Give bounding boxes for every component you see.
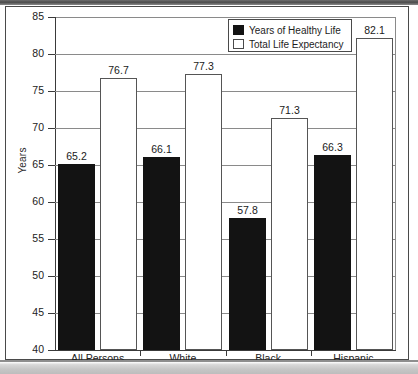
y-axis-tick xyxy=(48,239,55,240)
y-axis-tick xyxy=(48,128,55,129)
bar-total-life-expectancy xyxy=(356,38,393,350)
y-axis-tick-label: 65 xyxy=(0,159,44,170)
legend-swatch-black-square-icon xyxy=(233,25,244,35)
y-axis-tick-label: 50 xyxy=(0,270,44,281)
y-axis-tick xyxy=(48,350,55,351)
legend-swatch-white-square-icon xyxy=(233,39,244,49)
gridline xyxy=(55,54,396,55)
y-axis-tick-label: 85 xyxy=(0,11,44,22)
bar-value-label: 77.3 xyxy=(180,60,228,72)
chart-legend: Years of Healthy Life Total Life Expecta… xyxy=(228,19,352,52)
bar-healthy-life xyxy=(314,155,351,350)
bar-value-label: 66.3 xyxy=(309,141,357,153)
y-axis-tick xyxy=(48,313,55,314)
legend-item-total: Total Life Expectancy xyxy=(233,37,347,51)
y-axis-tick-label: 75 xyxy=(0,85,44,96)
bar-value-label: 65.2 xyxy=(53,150,101,162)
legend-label-healthy: Years of Healthy Life xyxy=(249,25,341,36)
y-axis-tick xyxy=(48,17,55,18)
plot-border-right xyxy=(395,17,396,351)
plot-border-left xyxy=(55,17,56,351)
bar-value-label: 76.7 xyxy=(95,64,143,76)
y-axis-tick-label: 80 xyxy=(0,48,44,59)
bar-total-life-expectancy xyxy=(185,74,222,350)
bar-value-label: 82.1 xyxy=(351,24,399,36)
y-axis-tick-label: 45 xyxy=(0,307,44,318)
y-axis-tick-label: 40 xyxy=(0,344,44,355)
plot-border-top xyxy=(55,17,396,18)
bar-healthy-life xyxy=(143,157,180,350)
y-axis-tick-label: 55 xyxy=(0,233,44,244)
scan-artifact-bottom-band xyxy=(0,362,418,374)
bar-value-label: 66.1 xyxy=(138,143,186,155)
bar-total-life-expectancy xyxy=(271,118,308,350)
bar-healthy-life xyxy=(229,218,266,350)
y-axis-tick xyxy=(48,165,55,166)
legend-label-total: Total Life Expectancy xyxy=(249,39,344,50)
y-axis-tick xyxy=(48,202,55,203)
scan-artifact-top-band xyxy=(0,0,418,5)
y-axis-tick xyxy=(48,54,55,55)
bar-healthy-life xyxy=(58,164,95,350)
bar-value-label: 71.3 xyxy=(266,104,314,116)
bar-value-label: 57.8 xyxy=(224,204,272,216)
y-axis-tick xyxy=(48,276,55,277)
bar-total-life-expectancy xyxy=(100,78,137,350)
y-axis-tick-label: 70 xyxy=(0,122,44,133)
legend-item-healthy: Years of Healthy Life xyxy=(233,23,347,37)
y-axis-tick xyxy=(48,91,55,92)
y-axis-tick-label: 60 xyxy=(0,196,44,207)
